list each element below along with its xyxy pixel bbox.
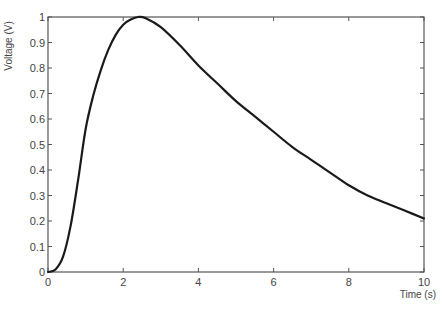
plot-frame xyxy=(48,17,424,272)
y-tick-label: 0.5 xyxy=(30,139,45,151)
y-tick-label: 0.9 xyxy=(30,37,45,49)
y-tick-label: 0.3 xyxy=(30,190,45,202)
x-tick-label: 10 xyxy=(418,276,430,288)
x-axis-label: Time (s) xyxy=(400,289,436,300)
y-tick-label: 0.7 xyxy=(30,88,45,100)
x-tick-label: 2 xyxy=(120,276,126,288)
line-chart: 0246810 00.10.20.30.40.50.60.70.80.91 Ti… xyxy=(0,0,442,310)
y-tick-label: 0 xyxy=(39,266,45,278)
y-tick-label: 1 xyxy=(39,11,45,23)
voltage-curve xyxy=(48,17,424,272)
x-axis-ticks: 0246810 xyxy=(45,17,430,288)
x-tick-label: 6 xyxy=(271,276,277,288)
x-tick-label: 4 xyxy=(195,276,201,288)
plot-border xyxy=(48,17,424,272)
y-tick-label: 0.2 xyxy=(30,215,45,227)
y-tick-label: 0.6 xyxy=(30,113,45,125)
x-tick-label: 0 xyxy=(45,276,51,288)
x-tick-label: 8 xyxy=(346,276,352,288)
y-axis-ticks: 00.10.20.30.40.50.60.70.80.91 xyxy=(30,11,424,278)
y-tick-label: 0.4 xyxy=(30,164,45,176)
y-tick-label: 0.1 xyxy=(30,241,45,253)
y-axis-label: Voltage (V) xyxy=(3,21,14,70)
y-tick-label: 0.8 xyxy=(30,62,45,74)
